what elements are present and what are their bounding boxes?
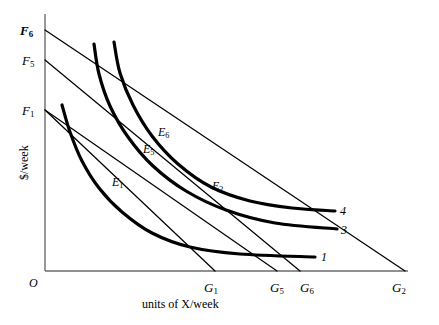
x-intercept-label-G6: G6 xyxy=(300,281,314,294)
equilibrium-label-E2: E2 xyxy=(212,180,223,192)
x-intercept-label-G5: G5 xyxy=(270,281,284,294)
equilibrium-label-E6: E6 xyxy=(158,126,169,138)
axes-group xyxy=(45,14,408,271)
curve-label-curve-4: 4 xyxy=(340,205,346,217)
equilibrium-label-E5: E5 xyxy=(143,143,154,155)
curve-label-curve-3: 3 xyxy=(341,224,347,236)
indifference-curve-diagram: $/week units of X/week O F6F5F1G1G5G6G2E… xyxy=(0,0,439,325)
indifference-curves-group xyxy=(62,42,337,257)
y-intercept-label-F5: F5 xyxy=(22,54,34,67)
indifference-curve-1 xyxy=(62,105,315,257)
y-intercept-label-F6: F6 xyxy=(20,24,33,37)
curve-label-curve-1: 1 xyxy=(321,251,327,263)
budget-lines-group xyxy=(45,30,405,271)
x-intercept-label-G1: G1 xyxy=(204,281,218,294)
equilibrium-label-E1: E1 xyxy=(112,176,123,188)
origin-label: O xyxy=(29,277,38,289)
diagram-canvas xyxy=(0,0,439,325)
x-axis-title: units of X/week xyxy=(142,298,219,310)
y-axis-title: $/week xyxy=(18,145,30,180)
x-intercept-label-G2: G2 xyxy=(392,281,406,294)
y-intercept-label-F1: F1 xyxy=(22,104,34,117)
indifference-curve-4 xyxy=(114,42,335,211)
